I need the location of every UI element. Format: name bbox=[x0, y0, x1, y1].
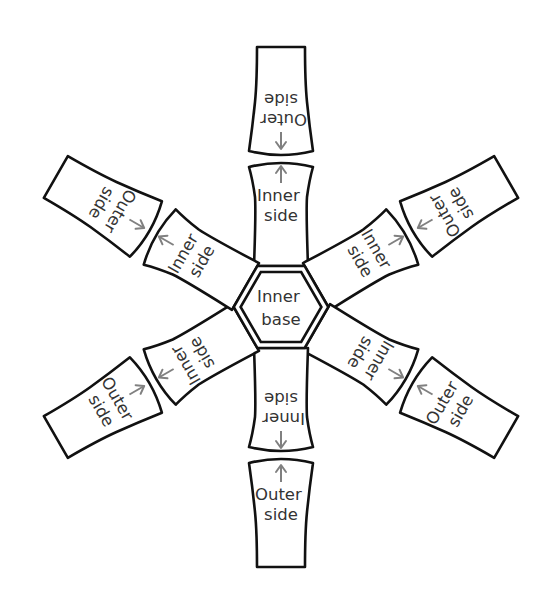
arm-240: Inner side Outer side bbox=[40, 300, 262, 465]
inner-side-label: Inner side bbox=[257, 389, 305, 428]
arm-60: Inner side Outer side bbox=[301, 149, 523, 314]
net-diagram: Inner side Outer side bbox=[0, 0, 557, 608]
diagram-svg: Inner side Outer side bbox=[0, 0, 557, 608]
arm-300: Inner side Outer side bbox=[40, 149, 262, 314]
arm-120: Inner side Outer side bbox=[301, 300, 523, 465]
inner-side-label: Inner side bbox=[257, 186, 305, 225]
arm-0: Inner side Outer side bbox=[249, 47, 313, 266]
arm-180: Inner side Outer side bbox=[249, 348, 313, 567]
diagram-group: Inner side Outer side bbox=[40, 47, 522, 567]
